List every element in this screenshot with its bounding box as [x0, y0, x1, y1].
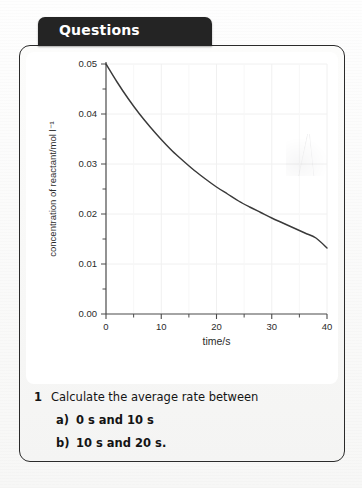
chart-y-tick-labels: 0.000.010.020.030.040.05 [79, 58, 98, 319]
questions-tab: Questions [38, 17, 212, 46]
chart-ticks [101, 64, 327, 319]
svg-text:20: 20 [211, 321, 222, 332]
svg-text:0.05: 0.05 [79, 58, 98, 69]
chart-gridlines [106, 64, 327, 314]
question-text: Calculate the average rate between [51, 390, 258, 404]
svg-text:0.04: 0.04 [79, 108, 98, 119]
subitem-text: 10 s and 20 s. [76, 436, 166, 450]
subitem-marker: b) [56, 436, 76, 450]
svg-text:0: 0 [103, 321, 108, 332]
svg-text:30: 30 [266, 321, 277, 332]
concentration-vs-time-chart: 010203040 0.000.010.020.030.040.05 time/… [26, 52, 338, 384]
svg-text:40: 40 [322, 321, 333, 332]
y-axis-label: concentration of reactant/mol l⁻¹ [47, 121, 58, 256]
svg-text:0.03: 0.03 [79, 158, 98, 169]
questions-list: 1 Calculate the average rate between a) … [20, 390, 344, 459]
x-axis-label: time/s [202, 335, 230, 347]
question-item: 1 Calculate the average rate between [34, 390, 330, 404]
chart-x-tick-labels: 010203040 [103, 321, 332, 332]
chart-panel: 010203040 0.000.010.020.030.040.05 time/… [26, 52, 338, 384]
question-subitem-b: b) 10 s and 20 s. [34, 436, 330, 450]
svg-text:0.02: 0.02 [79, 208, 98, 219]
questions-panel: 010203040 0.000.010.020.030.040.05 time/… [19, 45, 345, 462]
svg-text:0.01: 0.01 [79, 258, 98, 269]
subitem-text: 0 s and 10 s [76, 413, 154, 427]
subitem-marker: a) [56, 413, 76, 427]
question-number: 1 [34, 390, 51, 404]
questions-tab-label: Questions [59, 22, 140, 38]
question-subitem-a: a) 0 s and 10 s [34, 413, 330, 427]
svg-text:10: 10 [156, 321, 167, 332]
svg-text:0.00: 0.00 [79, 308, 98, 319]
